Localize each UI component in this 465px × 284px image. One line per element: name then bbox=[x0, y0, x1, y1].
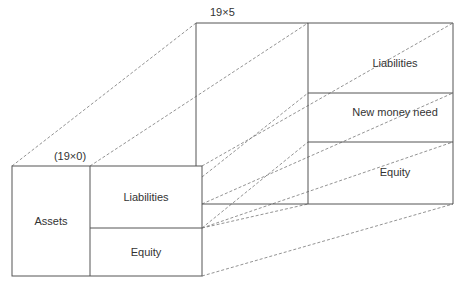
back-caption: 19×5 bbox=[210, 6, 270, 19]
back-new-money-label: New money need bbox=[340, 106, 450, 119]
balance-sheet-projection-diagram bbox=[0, 0, 465, 284]
front-caption: (19×0) bbox=[40, 150, 100, 163]
back-equity-label: Equity bbox=[340, 166, 450, 179]
front-assets-label: Assets bbox=[12, 215, 90, 228]
front-equity-label: Equity bbox=[90, 246, 202, 259]
back-liabilities-label: Liabilities bbox=[340, 57, 450, 70]
front-liabilities-label: Liabilities bbox=[90, 191, 202, 204]
